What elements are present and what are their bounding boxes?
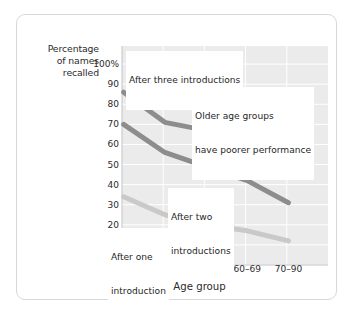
line-chart: Percentage of names recalled 01020304050…: [17, 15, 338, 301]
y-tick-label: 70: [79, 119, 119, 129]
annotation-line: After one: [111, 252, 166, 263]
annotation-line: After two: [171, 212, 231, 223]
y-tick-label: 30: [79, 200, 119, 210]
annotation-line: introduction: [111, 286, 166, 297]
annotation-line: Older age groups: [195, 111, 311, 122]
annotation-after-two-introductions: After two introductions: [168, 188, 234, 281]
y-tick-label: 100%: [79, 59, 119, 69]
x-tick-label: 70–90: [275, 264, 302, 274]
y-tick-label: 40: [79, 180, 119, 190]
y-tick-label: 60: [79, 139, 119, 149]
y-tick-label: 50: [79, 160, 119, 170]
annotation-older-age-groups: Older age groups have poorer performance: [192, 87, 314, 180]
y-tick-label: 90: [79, 79, 119, 89]
annotation-line: After three introductions: [129, 75, 240, 86]
x-tick-label: 60–69: [234, 264, 261, 274]
y-tick-label: 80: [79, 99, 119, 109]
annotation-after-one-introduction: After one introduction: [108, 228, 169, 315]
x-axis-title-label: Age group: [173, 281, 226, 292]
annotation-line: have poorer performance: [195, 145, 311, 156]
figure-card: Percentage of names recalled 01020304050…: [16, 14, 337, 300]
annotation-line: introductions: [171, 246, 231, 257]
x-axis-title: Age group: [17, 281, 338, 292]
